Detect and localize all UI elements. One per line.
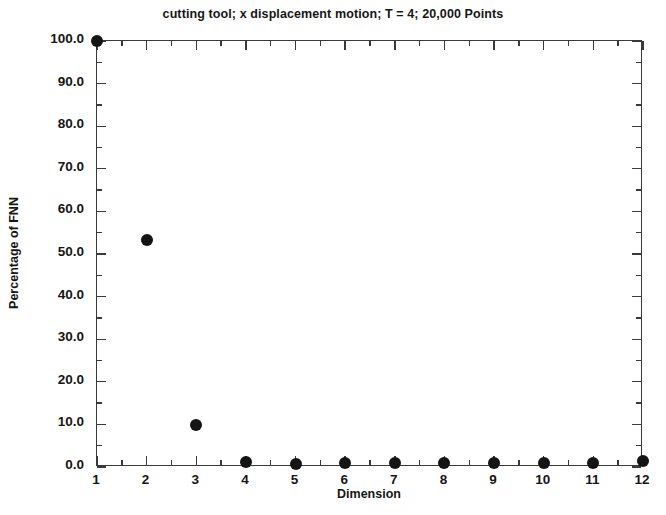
y-tick-major [97,339,106,340]
data-point [587,457,599,469]
y-axis-title: Percentage of FNN [7,153,21,353]
x-tick-minor-top [270,41,271,46]
y-tick-minor [97,104,102,105]
x-tick-minor [419,460,420,465]
x-tick-minor [320,460,321,465]
x-tick-major-top [394,41,395,50]
y-tick-major-right [632,339,641,340]
x-tick-minor [220,460,221,465]
y-tick-major-right [632,211,641,212]
data-point [240,456,252,468]
y-tick-major-right [632,168,641,169]
y-tick-minor [97,147,102,148]
y-tick-minor [97,232,102,233]
x-tick-minor-top [320,41,321,46]
y-tick-major [97,83,106,84]
fnn-scatter-chart: cutting tool; x displacement motion; T =… [0,0,666,515]
y-tick-major-right [632,126,641,127]
y-tick-minor [97,317,102,318]
y-tick-minor-right [636,360,641,361]
chart-title: cutting tool; x displacement motion; T =… [0,7,666,21]
y-tick-minor [97,402,102,403]
x-tick-minor-top [469,41,470,46]
data-point [290,458,302,470]
data-point [438,457,450,469]
y-tick-minor-right [636,232,641,233]
y-tick-minor-right [636,104,641,105]
x-tick-major [196,456,197,465]
y-tick-major-right [632,296,641,297]
y-tick-minor [97,62,102,63]
x-tick-minor [518,460,519,465]
data-point [488,457,500,469]
y-tick-minor-right [636,445,641,446]
x-tick-minor-top [419,41,420,46]
x-tick-minor-top [121,41,122,46]
y-tick-minor-right [636,147,641,148]
x-tick-major-top [196,41,197,50]
y-tick-major-right [632,424,641,425]
y-tick-major-right [632,381,641,382]
data-point [190,419,202,431]
y-tick-label: 80.0 [0,116,84,131]
y-tick-label: 90.0 [0,74,84,89]
x-tick-major-top [493,41,494,50]
plot-area [96,40,642,466]
data-point [637,455,649,467]
y-tick-label: 0.0 [0,457,84,472]
x-tick-minor [270,460,271,465]
y-tick-minor [97,275,102,276]
data-point [91,35,103,47]
y-tick-label: 20.0 [0,372,84,387]
x-tick-major-top [593,41,594,50]
x-tick-major-top [642,41,643,50]
x-tick-label: 12 [612,472,666,487]
x-tick-minor [171,460,172,465]
y-tick-major [97,381,106,382]
y-tick-minor-right [636,62,641,63]
data-point [339,457,351,469]
x-tick-minor [369,460,370,465]
x-tick-major-top [146,41,147,50]
y-tick-minor [97,189,102,190]
data-point [538,457,550,469]
data-point [141,234,153,246]
x-tick-major-top [444,41,445,50]
y-tick-minor [97,360,102,361]
x-tick-minor [121,460,122,465]
y-tick-minor [97,445,102,446]
x-tick-minor-top [171,41,172,46]
x-tick-minor [469,460,470,465]
x-axis-title: Dimension [96,487,642,501]
y-tick-minor-right [636,317,641,318]
y-tick-label: 100.0 [0,31,84,46]
x-tick-minor-top [568,41,569,46]
y-tick-major [97,126,106,127]
x-tick-major [96,456,97,465]
y-tick-major [97,253,106,254]
y-tick-major-right [632,253,641,254]
y-tick-major-right [632,83,641,84]
y-tick-minor-right [636,189,641,190]
x-tick-major [146,456,147,465]
y-tick-major-right [632,40,641,41]
x-tick-major-top [295,41,296,50]
y-tick-major [97,168,106,169]
data-point [389,457,401,469]
x-tick-major-top [344,41,345,50]
y-tick-major [97,296,106,297]
x-tick-major-top [543,41,544,50]
x-tick-minor-top [369,41,370,46]
y-tick-minor-right [636,402,641,403]
x-tick-minor-top [220,41,221,46]
x-tick-minor [568,460,569,465]
y-tick-label: 10.0 [0,414,84,429]
y-tick-major [97,211,106,212]
y-tick-minor-right [636,275,641,276]
x-tick-minor [617,460,618,465]
x-tick-minor-top [518,41,519,46]
y-tick-major [97,424,106,425]
y-tick-major [97,466,106,467]
x-tick-major-top [245,41,246,50]
x-tick-minor-top [617,41,618,46]
